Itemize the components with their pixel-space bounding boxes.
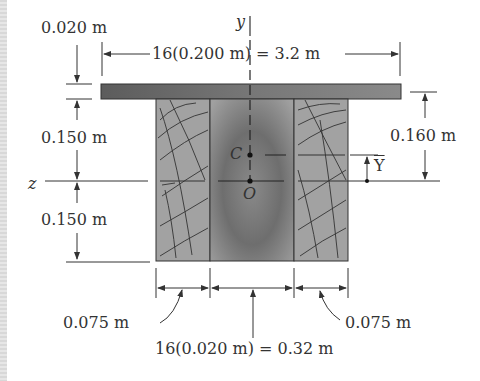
origin-point (247, 178, 252, 183)
label-lower-height: 0.150 m (41, 212, 107, 228)
dim-heights-left (66, 150, 150, 262)
label-steel-core-width: 16(0.020 m) = 0.32 m (155, 341, 333, 357)
label-y-bar: Y (374, 158, 385, 174)
centroid-point (247, 152, 252, 157)
label-y-axis: y (236, 14, 245, 30)
label-centroid: C (230, 146, 242, 162)
label-upper-height: 0.150 m (41, 130, 107, 146)
label-plate-width: 16(0.200 m) = 3.2 m (152, 46, 320, 62)
label-z-axis: z (28, 176, 36, 192)
top-steel-plate (101, 84, 401, 99)
label-left-wood-width: 0.075 m (63, 315, 129, 331)
label-plate-to-axis: 0.160 m (390, 128, 456, 144)
label-origin: O (243, 186, 256, 202)
left-wood-member (156, 99, 210, 261)
right-wood-member (294, 99, 348, 261)
label-plate-thickness: 0.020 m (41, 20, 107, 36)
dim-plate-thickness (66, 45, 92, 120)
label-right-wood-width: 0.075 m (345, 315, 411, 331)
dim-bottom-widths (156, 268, 348, 338)
